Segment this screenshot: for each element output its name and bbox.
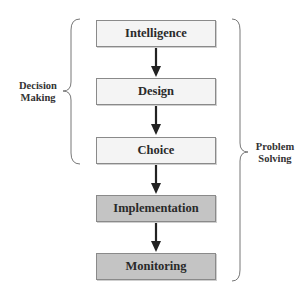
step-design: Design	[96, 78, 216, 105]
arrow-choice-to-implementation	[151, 165, 161, 194]
step-intelligence: Intelligence	[96, 20, 216, 47]
step-choice: Choice	[96, 137, 216, 164]
right-brace-icon	[232, 19, 248, 281]
problem-solving-label: Problem Solving	[249, 141, 301, 165]
step-implementation: Implementation	[96, 195, 216, 222]
decision-making-label: Decision Making	[14, 80, 62, 104]
step-label: Implementation	[113, 201, 198, 216]
step-label: Monitoring	[125, 259, 186, 274]
step-monitoring: Monitoring	[96, 253, 216, 280]
arrow-implementation-to-monitoring	[151, 223, 161, 252]
step-label: Intelligence	[125, 26, 187, 41]
arrow-design-to-choice	[151, 106, 161, 135]
arrow-intelligence-to-design	[151, 48, 161, 77]
left-brace-icon	[63, 19, 80, 164]
step-label: Choice	[138, 143, 175, 158]
step-label: Design	[138, 84, 174, 99]
